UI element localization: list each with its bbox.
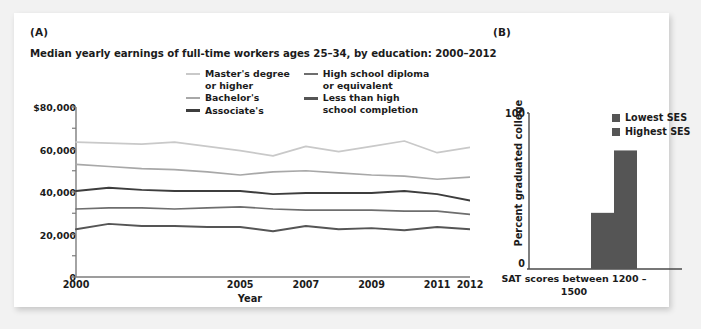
chart-a-xtick-2000: 2000 — [63, 279, 90, 290]
legend-item-highest-ses[interactable]: Highest SES — [612, 126, 691, 137]
legend-item-lowest-ses[interactable]: Lowest SES — [612, 112, 691, 123]
chart-a-title: Median yearly earnings of full-time work… — [30, 48, 497, 59]
legend-swatch-lowest-ses — [612, 114, 620, 122]
chart-b-ytick-0: 0 — [497, 258, 525, 269]
chart-a-lines — [30, 101, 470, 301]
legend-label-high-school: High school diploma or equivalent — [323, 68, 429, 91]
chart-a-xtick-2009: 2009 — [358, 279, 385, 290]
chart-a-x-axis-ticks: 200020052007200920112012 — [30, 277, 470, 293]
chart-a-x-axis-title: Year — [30, 293, 470, 304]
chart-a-xtick-2005: 2005 — [227, 279, 254, 290]
legend-label-highest-ses: Highest SES — [625, 126, 691, 137]
chart-a-plot: $80,00060,00040,00020,0000 2000200520072… — [30, 101, 470, 301]
panel-b-label: (B) — [493, 26, 511, 38]
legend-swatch-high-school — [304, 73, 318, 75]
chart-b-x-axis-label: SAT scores between 1200 – 1500 — [499, 273, 649, 298]
figure-card: (A) Median yearly earnings of full-time … — [14, 13, 669, 307]
legend-item-high-school[interactable]: High school diploma or equivalent — [304, 68, 429, 91]
panel-a-label: (A) — [30, 26, 48, 38]
chart-a-xtick-2007: 2007 — [292, 279, 319, 290]
chart-a-xtick-2011: 2011 — [424, 279, 451, 290]
legend-swatch-masters — [186, 73, 200, 75]
legend-label-masters: Master's degree or higher — [205, 68, 290, 91]
chart-b-plot: Percent graduated college 100 0 Lowest S… — [493, 101, 693, 301]
chart-b-y-axis-title: Percent graduated college — [513, 107, 524, 247]
chart-b-ytick-100: 100 — [497, 108, 525, 119]
chart-a-xtick-2012: 2012 — [457, 279, 484, 290]
legend-swatch-highest-ses — [612, 128, 620, 136]
legend-swatch-bachelors — [186, 97, 200, 99]
legend-swatch-less-than-high-school — [304, 97, 318, 100]
chart-b-legend: Lowest SES Highest SES — [612, 112, 691, 137]
legend-label-lowest-ses: Lowest SES — [625, 112, 687, 123]
legend-item-masters[interactable]: Master's degree or higher — [186, 68, 290, 91]
